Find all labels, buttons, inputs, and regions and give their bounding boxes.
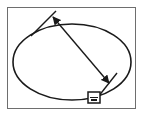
resize-handle-icon[interactable] [88,92,100,103]
extension-line-top [31,11,56,36]
dimension-arrow[interactable] [53,17,109,83]
ellipse-diagram [0,0,143,116]
extension-line-bottom [98,73,117,97]
